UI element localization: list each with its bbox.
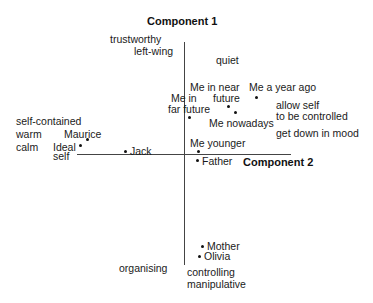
construct-self-contained: self-contained bbox=[16, 115, 81, 127]
construct-to-be-controlled: to be controlled bbox=[276, 110, 348, 122]
axis-title-component-1: Component 1 bbox=[147, 15, 217, 27]
element-me-a-year-ago-point bbox=[255, 96, 258, 99]
construct-organising: organising bbox=[119, 262, 167, 274]
element-olivia-point bbox=[198, 255, 201, 258]
element-maurice-point bbox=[86, 138, 89, 141]
construct-warm: warm bbox=[16, 128, 42, 140]
element-me-in-near-future-label-2: future bbox=[213, 92, 240, 104]
biplot-diagram: Component 1 Component 2 trustworthy left… bbox=[0, 0, 373, 303]
construct-quiet: quiet bbox=[216, 54, 239, 66]
element-me-nowadays-point bbox=[234, 111, 237, 114]
axis-title-component-2: Component 2 bbox=[243, 156, 313, 168]
construct-get-down-in-mood: get down in mood bbox=[276, 127, 359, 139]
element-ideal-point bbox=[79, 144, 82, 147]
element-mother-point bbox=[201, 245, 204, 248]
element-ideal-label: Ideal bbox=[53, 141, 76, 153]
element-father-point bbox=[196, 159, 199, 162]
element-me-a-year-ago-label: Me a year ago bbox=[249, 81, 316, 93]
element-jack-label: Jack bbox=[130, 145, 152, 157]
construct-calm: calm bbox=[16, 141, 38, 153]
element-maurice-label: Maurice bbox=[64, 128, 101, 140]
element-me-younger-point bbox=[197, 150, 200, 153]
element-me-in-far-future-point bbox=[188, 116, 191, 119]
element-me-nowadays-label: Me nowadays bbox=[209, 117, 274, 129]
element-me-in-near-future-point bbox=[227, 105, 230, 108]
element-me-younger-label: Me younger bbox=[190, 137, 245, 149]
element-olivia-label: Olivia bbox=[204, 250, 230, 262]
construct-manipulative: manipulative bbox=[187, 278, 246, 290]
element-father-label: Father bbox=[202, 155, 232, 167]
element-me-in-far-future-label-2: far future bbox=[168, 103, 210, 115]
construct-trustworthy: trustworthy bbox=[110, 33, 161, 45]
construct-controlling: controlling bbox=[187, 266, 235, 278]
horizontal-axis bbox=[77, 154, 291, 155]
element-jack-point bbox=[124, 150, 127, 153]
construct-left-wing: left-wing bbox=[134, 45, 173, 57]
